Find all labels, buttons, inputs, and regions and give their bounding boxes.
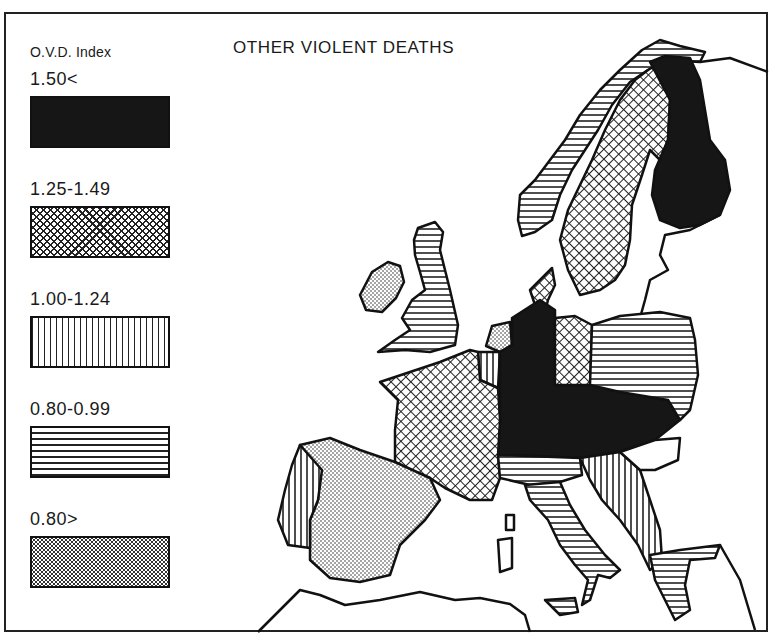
border-line	[720, 545, 755, 630]
coastline	[640, 215, 720, 318]
region-sardinia	[498, 538, 512, 572]
region-greece	[650, 545, 720, 620]
border-line	[700, 58, 768, 72]
region-alpine	[498, 455, 582, 485]
coastline-africa	[258, 590, 530, 632]
region-ireland	[360, 262, 404, 312]
europe-map	[0, 0, 776, 638]
region-corsica	[506, 515, 514, 530]
region-east-germany	[555, 316, 592, 385]
region-sicily	[545, 598, 578, 615]
